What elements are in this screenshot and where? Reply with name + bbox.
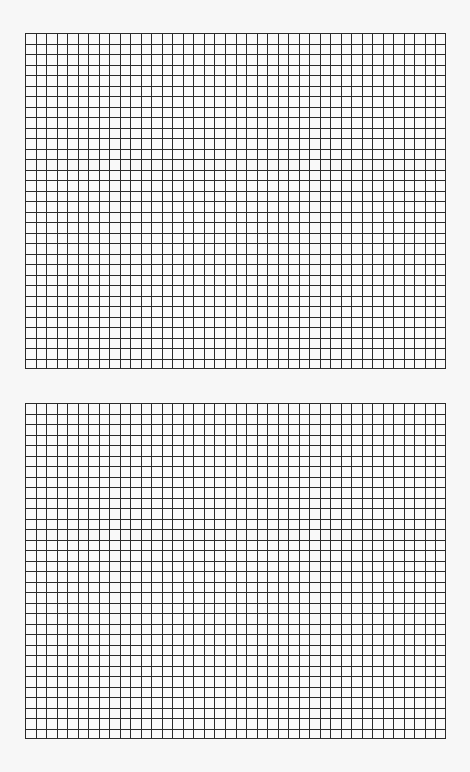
graph-paper-page: [0, 0, 470, 772]
bottom-grid: [25, 403, 446, 739]
grid-lines: [26, 404, 445, 738]
top-grid: [25, 33, 446, 369]
grid-lines: [26, 34, 445, 368]
